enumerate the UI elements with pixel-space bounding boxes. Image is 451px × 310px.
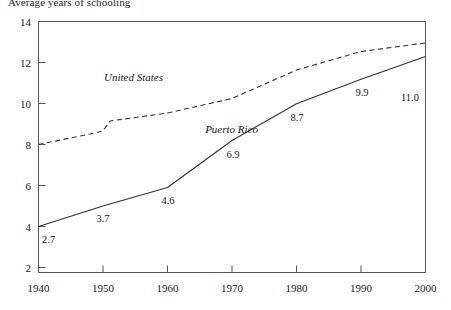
x-tick-label-1950: 1950 (92, 282, 115, 294)
axis-frame (39, 22, 426, 273)
chart-container: Average years of schooling 14 (0, 0, 451, 310)
x-tick-label-1960: 1960 (157, 282, 180, 294)
chart-svg: 14 12 10 8 6 4 2 1940 1950 1960 1970 198… (0, 0, 451, 310)
x-tick-marks (103, 266, 361, 273)
data-label-1950: 3.7 (96, 213, 109, 224)
x-tick-label-1980: 1980 (286, 282, 309, 294)
series-line-puerto-rico (39, 57, 426, 227)
data-label-1980: 8.7 (290, 112, 303, 123)
y-tick-label-12: 12 (20, 57, 31, 69)
x-tick-label-2000: 2000 (415, 282, 438, 294)
data-label-1960: 4.6 (161, 195, 174, 206)
y-tick-label-8: 8 (26, 139, 32, 151)
data-label-2000: 11.0 (401, 92, 419, 103)
series-label-puerto-rico: Puerto Rico (204, 123, 258, 135)
data-label-1970: 6.9 (226, 149, 239, 160)
y-tick-label-6: 6 (26, 180, 32, 192)
data-label-1940: 2.7 (42, 234, 55, 245)
x-tick-label-1970: 1970 (221, 282, 244, 294)
x-tick-label-1990: 1990 (350, 282, 373, 294)
data-label-1990: 9.9 (355, 87, 368, 98)
y-tick-label-10: 10 (20, 98, 32, 110)
y-tick-label-14: 14 (20, 16, 32, 28)
y-tick-label-2: 2 (26, 262, 32, 274)
series-label-united-states: United States (104, 71, 163, 83)
y-tick-label-4: 4 (26, 221, 32, 233)
x-tick-label-1940: 1940 (28, 282, 51, 294)
